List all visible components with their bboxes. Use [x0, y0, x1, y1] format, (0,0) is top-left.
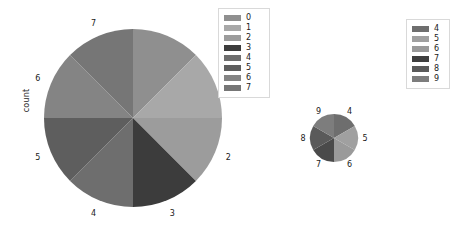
- legend-swatch: [412, 26, 429, 32]
- legend-label: 7: [246, 83, 251, 93]
- legend-swatch: [224, 15, 241, 21]
- legend-label: 6: [434, 44, 439, 54]
- legend-swatch: [224, 55, 241, 61]
- legend-label: 4: [434, 24, 439, 34]
- legend-item[interactable]: 3: [224, 43, 263, 53]
- legend-swatch: [224, 45, 241, 51]
- legend-item[interactable]: 8: [412, 64, 443, 74]
- legend-swatch: [224, 75, 241, 81]
- pie-slice-label: 7: [316, 160, 321, 169]
- legend-item[interactable]: 7: [224, 83, 263, 93]
- legend-item[interactable]: 7: [412, 54, 443, 64]
- pie-slice-label: 3: [170, 209, 175, 218]
- small-pie-svg: 456789: [296, 100, 372, 176]
- legend-label: 5: [246, 63, 251, 73]
- legend-item[interactable]: 9: [412, 74, 443, 84]
- legend-label: 8: [434, 64, 439, 74]
- legend-swatch: [412, 56, 429, 62]
- legend-label: 0: [246, 13, 251, 23]
- legend-label: 1: [246, 23, 251, 33]
- pie-slice-label: 7: [91, 19, 96, 28]
- legend-swatch: [224, 65, 241, 71]
- legend-item[interactable]: 0: [224, 13, 263, 23]
- legend-swatch: [224, 25, 241, 31]
- legend-swatch: [412, 66, 429, 72]
- legend-item[interactable]: 6: [412, 44, 443, 54]
- pie-slice-label: 6: [347, 160, 352, 169]
- legend-label: 3: [246, 43, 251, 53]
- legend-swatch: [224, 35, 241, 41]
- legend-item[interactable]: 5: [412, 34, 443, 44]
- small-pie-chart: 456789: [296, 100, 372, 176]
- legend-label: 9: [434, 74, 439, 84]
- large-pie-svg: 1234567: [38, 12, 228, 224]
- legend-swatch: [412, 36, 429, 42]
- pie-slice-label: 2: [226, 153, 231, 162]
- legend-label: 4: [246, 53, 251, 63]
- large-pie-chart: 1234567: [38, 12, 228, 224]
- legend-item[interactable]: 2: [224, 33, 263, 43]
- legend-large-pie: 01234567: [218, 8, 270, 98]
- legend-label: 5: [434, 34, 439, 44]
- legend-item[interactable]: 6: [224, 73, 263, 83]
- pie-slice-label: 9: [316, 107, 321, 116]
- legend-item[interactable]: 1: [224, 23, 263, 33]
- pie-slice-label: 4: [347, 107, 352, 116]
- pie-slice-label: 5: [362, 134, 367, 143]
- y-axis-label: count: [22, 79, 31, 123]
- legend-small-pie: 456789: [406, 19, 450, 89]
- legend-swatch: [412, 46, 429, 52]
- legend-label: 2: [246, 33, 251, 43]
- pie-slice-label: 6: [35, 74, 40, 83]
- legend-swatch: [224, 85, 241, 91]
- legend-item[interactable]: 4: [412, 24, 443, 34]
- pie-slice-label: 5: [35, 153, 40, 162]
- legend-label: 6: [246, 73, 251, 83]
- legend-label: 7: [434, 54, 439, 64]
- pie-slice-label: 4: [91, 209, 96, 218]
- figure-canvas: count 1234567 01234567 456789 456789: [0, 0, 455, 236]
- legend-swatch: [412, 76, 429, 82]
- legend-item[interactable]: 4: [224, 53, 263, 63]
- legend-item[interactable]: 5: [224, 63, 263, 73]
- pie-slice-label: 8: [300, 134, 305, 143]
